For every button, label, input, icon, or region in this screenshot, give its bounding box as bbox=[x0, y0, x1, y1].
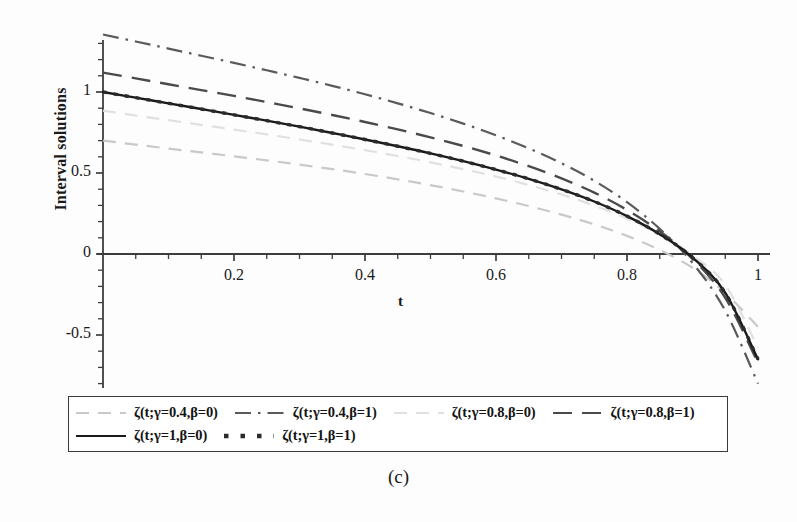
x-tick-label: 0.8 bbox=[597, 266, 657, 284]
plot-canvas bbox=[0, 0, 797, 400]
legend-entry[interactable]: ζ(t;γ=0.4,β=1) bbox=[234, 404, 377, 421]
legend-label: ζ(t;γ=1,β=0) bbox=[134, 427, 207, 444]
x-tick-label: 0.2 bbox=[204, 266, 264, 284]
legend-line-sample bbox=[552, 406, 604, 420]
x-tick-label: 0.4 bbox=[335, 266, 395, 284]
legend-label: ζ(t;γ=0.4,β=0) bbox=[134, 404, 218, 421]
y-tick-label: 0.5 bbox=[33, 162, 91, 180]
legend-line-sample bbox=[223, 429, 275, 443]
legend-sample-wrap bbox=[75, 406, 127, 420]
y-tick-label: 1 bbox=[33, 81, 91, 99]
legend-sample-wrap bbox=[234, 406, 286, 420]
series-line bbox=[103, 92, 758, 359]
x-axis-title: t bbox=[398, 293, 403, 310]
legend-label: ζ(t;γ=0.8,β=0) bbox=[452, 404, 536, 421]
series-line bbox=[103, 92, 758, 359]
figure-panel-c: Interval solutions t 10.50-0.50.20.40.60… bbox=[0, 0, 797, 522]
legend-box: ζ(t;γ=0.4,β=0)ζ(t;γ=0.4,β=1)ζ(t;γ=0.8,β=… bbox=[68, 396, 728, 452]
legend-entry[interactable]: ζ(t;γ=0.4,β=0) bbox=[75, 404, 218, 421]
legend-entry[interactable]: ζ(t;γ=1,β=1) bbox=[223, 427, 355, 444]
legend-sample-wrap bbox=[75, 429, 127, 443]
legend-sample-wrap bbox=[552, 406, 604, 420]
legend-row: ζ(t;γ=1,β=0)ζ(t;γ=1,β=1) bbox=[75, 424, 721, 447]
y-tick-label: 0 bbox=[33, 243, 91, 261]
legend-line-sample bbox=[234, 406, 286, 420]
series-line bbox=[103, 34, 758, 383]
series-line bbox=[103, 73, 758, 363]
x-tick-label: 0.6 bbox=[466, 266, 526, 284]
legend-label: ζ(t;γ=1,β=1) bbox=[282, 427, 355, 444]
legend-row: ζ(t;γ=0.4,β=0)ζ(t;γ=0.4,β=1)ζ(t;γ=0.8,β=… bbox=[75, 401, 721, 424]
legend-entry[interactable]: ζ(t;γ=1,β=0) bbox=[75, 427, 207, 444]
legend-entry[interactable]: ζ(t;γ=0.8,β=1) bbox=[552, 404, 695, 421]
y-tick-label: -0.5 bbox=[33, 324, 91, 342]
x-tick-label: 1 bbox=[728, 266, 788, 284]
legend-label: ζ(t;γ=0.4,β=1) bbox=[293, 404, 377, 421]
legend-entry[interactable]: ζ(t;γ=0.8,β=0) bbox=[393, 404, 536, 421]
legend-line-sample bbox=[75, 429, 127, 443]
plot-area: Interval solutions t 10.50-0.50.20.40.60… bbox=[0, 0, 797, 400]
y-axis-title: Interval solutions bbox=[52, 44, 70, 254]
legend-sample-wrap bbox=[393, 406, 445, 420]
legend-label: ζ(t;γ=0.8,β=1) bbox=[611, 404, 695, 421]
legend-line-sample bbox=[75, 406, 127, 420]
legend-line-sample bbox=[393, 406, 445, 420]
figure-caption: (c) bbox=[0, 466, 797, 488]
legend-sample-wrap bbox=[223, 429, 275, 443]
